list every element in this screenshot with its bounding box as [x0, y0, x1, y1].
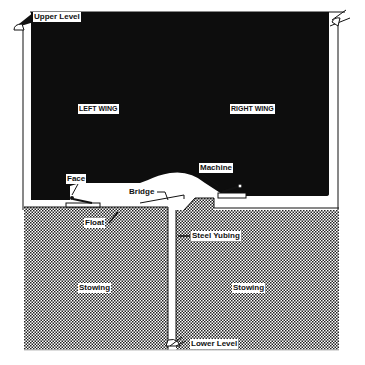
- float-label: Float: [84, 218, 105, 228]
- face-machine-left-icon: [66, 196, 100, 207]
- stowing-left-label: Stowing: [78, 283, 111, 293]
- lower-level-label: Lower Level: [190, 339, 238, 349]
- stowing-left-block: [24, 207, 168, 350]
- steel-tubing-label: Steel Yubing: [191, 231, 241, 241]
- left-wing-label: LEFT WING: [78, 104, 119, 114]
- mine-cross-section-diagram: [0, 0, 365, 365]
- face-leader-arrow: [72, 184, 78, 195]
- stowing-right-label: Stowing: [232, 283, 265, 293]
- stowing-right-ramp: [184, 198, 214, 210]
- face-label: Face: [66, 174, 86, 184]
- machine-label: Machine: [199, 163, 233, 173]
- upper-level-label: Upper Level: [33, 12, 81, 22]
- right-wing-label: RIGHT WING: [230, 104, 275, 114]
- steel-tubing: [168, 205, 176, 350]
- extracted-void-region: [31, 12, 329, 200]
- bridge-label: Bridge: [128, 187, 155, 197]
